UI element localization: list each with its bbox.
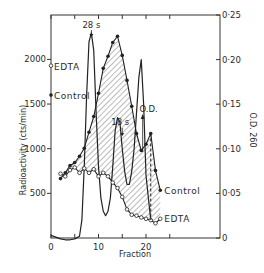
control-label-left: Control	[54, 91, 90, 101]
x-tick-label: 0	[48, 242, 53, 252]
control-marker	[120, 54, 124, 58]
edta-marker	[116, 186, 120, 190]
edta-marker	[120, 195, 124, 199]
edta-marker	[130, 213, 134, 217]
edta-marker	[106, 175, 110, 179]
annotation-18s: 18 s	[111, 117, 130, 127]
annotation-28s: 28 s	[82, 20, 101, 30]
edta-marker	[92, 167, 96, 171]
control-marker	[68, 164, 72, 168]
y-right-tick-label: 0·20	[222, 55, 241, 65]
control-marker	[78, 154, 82, 158]
edta-marker	[97, 175, 101, 179]
control-marker	[158, 188, 162, 192]
edta-label-end: EDTA	[164, 214, 190, 224]
control-marker	[59, 177, 63, 181]
edta-marker	[158, 217, 162, 221]
x-tick-label: 10	[93, 242, 104, 252]
control-marker	[144, 142, 148, 146]
control-marker	[116, 34, 120, 38]
control-marker	[92, 115, 96, 119]
y-right-tick-label: 0·25	[222, 10, 241, 20]
edta-start-marker	[49, 64, 53, 68]
y-tick-label: 2000	[24, 54, 46, 64]
edta-marker	[78, 171, 82, 175]
edta-marker	[125, 208, 129, 212]
edta-marker	[82, 167, 86, 171]
control-marker	[111, 41, 115, 45]
edta-marker	[111, 181, 115, 185]
control-label-end: Control	[164, 186, 200, 196]
edta-label-left: EDTA	[54, 62, 80, 72]
edta-marker	[73, 166, 77, 170]
edta-marker	[59, 172, 63, 176]
edta-marker	[144, 217, 148, 221]
edta-marker	[87, 171, 91, 175]
edta-marker	[101, 171, 105, 175]
control-marker	[101, 67, 105, 71]
y-right-axis-title: O.D. 260	[248, 112, 257, 147]
control-start-marker	[49, 93, 53, 97]
y-right-tick-label: 0·15	[222, 99, 241, 109]
chart-container: 01020Fraction500100015002000Radioactivit…	[0, 0, 264, 273]
edta-marker	[135, 214, 139, 218]
control-marker	[73, 161, 77, 165]
control-marker	[97, 92, 101, 96]
edta-marker	[63, 175, 67, 179]
y-tick-label: 500	[30, 188, 46, 198]
y-axis-title: Radioactivity (cts/min)	[19, 105, 28, 195]
edta-marker	[139, 216, 143, 220]
control-marker	[87, 130, 91, 134]
control-marker	[130, 104, 134, 108]
edta-marker	[68, 168, 72, 172]
x-axis-title: Fraction	[119, 250, 151, 259]
annotation-od: O.D.	[140, 104, 158, 114]
y-right-tick-label: 0·10	[222, 144, 241, 154]
y-right-tick-label: 0·05	[222, 188, 241, 198]
y-right-tick-label: 0	[222, 233, 227, 243]
control-marker	[106, 54, 110, 58]
control-marker	[125, 79, 129, 83]
edta-marker	[154, 221, 158, 225]
control-marker	[82, 146, 86, 150]
chart-svg: 01020Fraction500100015002000Radioactivit…	[0, 0, 264, 273]
control-marker	[154, 169, 158, 173]
control-marker	[135, 132, 139, 136]
